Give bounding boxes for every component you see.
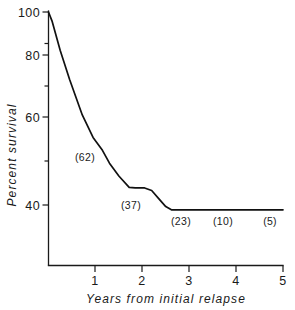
- annotation-23: (23): [171, 215, 191, 227]
- x-axis-ticks: [95, 266, 283, 273]
- x-tick-label-1: 1: [91, 274, 98, 288]
- annotation-5: (5): [263, 215, 277, 227]
- y-axis-ticks: [43, 12, 49, 205]
- y-axis-tick-labels: 100 80 60 40: [18, 6, 40, 213]
- y-axis-title: Percent survival: [5, 104, 19, 207]
- survival-curve-figure: 100 80 60 40 Percent survival 1 2 3 4 5: [0, 0, 295, 310]
- y-tick-label-80: 80: [25, 49, 40, 63]
- y-axis-group: 100 80 60 40 Percent survival: [5, 6, 49, 265]
- annotation-62: (62): [75, 151, 95, 163]
- x-tick-label-3: 3: [185, 274, 192, 288]
- x-tick-label-2: 2: [138, 274, 145, 288]
- x-tick-label-5: 5: [279, 274, 286, 288]
- series-annotations: (62) (37) (23) (10) (5): [75, 151, 277, 227]
- chart-canvas: 100 80 60 40 Percent survival 1 2 3 4 5: [0, 0, 295, 310]
- x-axis-group: 1 2 3 4 5 Years from initial relapse: [49, 266, 287, 307]
- survival-series-line: [49, 12, 284, 210]
- y-tick-label-60: 60: [25, 111, 40, 125]
- x-axis-title: Years from initial relapse: [86, 292, 246, 306]
- x-tick-label-4: 4: [232, 274, 239, 288]
- x-axis-tick-labels: 1 2 3 4 5: [91, 274, 286, 288]
- annotation-37: (37): [121, 199, 141, 211]
- annotation-10: (10): [213, 215, 233, 227]
- y-tick-label-40: 40: [25, 199, 40, 213]
- y-tick-label-100: 100: [18, 6, 40, 20]
